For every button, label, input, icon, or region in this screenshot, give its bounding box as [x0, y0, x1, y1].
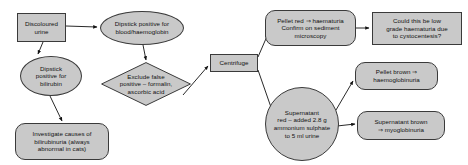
node-label-dipstick-blood: Dipstick positive for blood/haemoglobin: [103, 20, 181, 35]
node-label-pellet-brown: Pellet brown ⇒ haemoglobinuria: [358, 68, 435, 83]
node-low-grade-haematuria: Could this be low grade haematuria due t…: [372, 12, 462, 45]
node-label-supernatant-brown: Supernatant brown ⇒ myoglobinuria: [360, 118, 442, 133]
node-investigate-bilirubinuria: Investigate causes of bilirubinuria (alw…: [15, 123, 109, 160]
edge-urine-to-blood: [66, 26, 97, 27]
node-label-pellet-red: Pellet red ⇒ haematuria Confirm on sedim…: [268, 17, 353, 40]
node-pellet-red: Pellet red ⇒ haematuria Confirm on sedim…: [265, 10, 356, 46]
edge-urine-to-bilirubin: [38, 42, 43, 54]
node-label-dipstick-bilirubin: Dipstick positive for bilirubin: [23, 65, 79, 88]
node-label-discoloured-urine: Discoloured urine: [20, 20, 63, 35]
edge-supern-to-pelletbrown: [336, 81, 353, 110]
node-label-exclude-false-positive: Exclude false positive – formalin, ascor…: [103, 73, 189, 96]
node-centrifuge: Centrifuge: [210, 54, 258, 72]
node-pellet-brown: Pellet brown ⇒ haemoglobinuria: [355, 62, 438, 90]
node-label-supernatant-red: Supernatant red – added 2.8 g ammonium s…: [268, 109, 336, 139]
flowchart-canvas: Discoloured urineDipstick positive for b…: [0, 0, 468, 165]
node-dipstick-blood: Dipstick positive for blood/haemoglobin: [100, 11, 184, 45]
node-supernatant-brown: Supernatant brown ⇒ myoglobinuria: [357, 111, 445, 140]
node-exclude-false-positive: Exclude false positive – formalin, ascor…: [101, 62, 191, 106]
node-label-investigate-bilirubinuria: Investigate causes of bilirubinuria (alw…: [18, 130, 106, 153]
edge-supern-to-supernbrown: [337, 124, 355, 126]
node-label-centrifuge: Centrifuge: [213, 59, 255, 67]
node-discoloured-urine: Discoloured urine: [17, 13, 66, 42]
node-label-low-grade-haematuria: Could this be low grade haematuria due t…: [375, 17, 459, 40]
edge-blood-to-exclude: [143, 45, 146, 60]
edge-bilirubin-to-investig: [50, 96, 62, 121]
node-supernatant-red: Supernatant red – added 2.8 g ammonium s…: [265, 87, 339, 161]
node-dipstick-bilirubin: Dipstick positive for bilirubin: [20, 56, 82, 96]
